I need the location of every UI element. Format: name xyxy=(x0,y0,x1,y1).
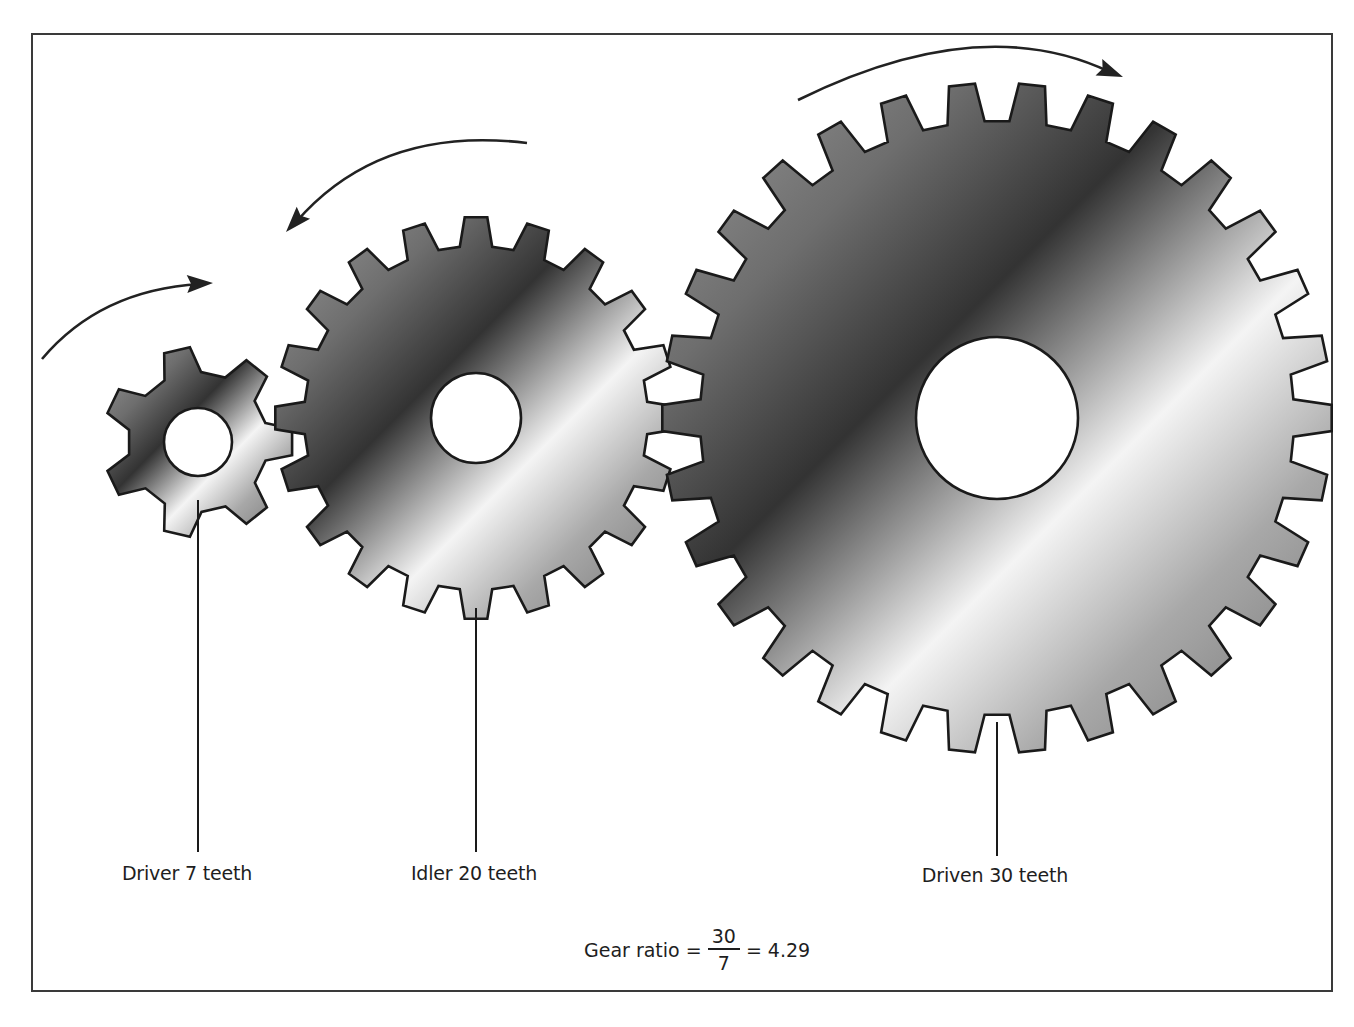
driven-gear-label: Driven 30 teeth xyxy=(922,864,1068,886)
driven-gear xyxy=(662,84,1331,753)
fraction-numerator: 30 xyxy=(708,925,740,950)
fraction-denominator: 7 xyxy=(718,950,730,976)
idler-gear xyxy=(275,217,676,618)
driver-gear xyxy=(108,347,293,536)
idler-gear-label: Idler 20 teeth xyxy=(411,862,537,884)
arrowhead-icon xyxy=(1096,59,1127,85)
formula-result: = 4.29 xyxy=(746,939,810,961)
gears-group xyxy=(108,84,1332,753)
driver-gear-label: Driver 7 teeth xyxy=(122,862,252,884)
formula-prefix: Gear ratio = xyxy=(584,939,702,961)
idler-rotation-arrow xyxy=(279,140,527,238)
fraction: 30 7 xyxy=(708,925,740,976)
gear-ratio-formula: Gear ratio = 30 7 = 4.29 xyxy=(584,922,810,978)
driver-rotation-arrow xyxy=(42,274,213,359)
